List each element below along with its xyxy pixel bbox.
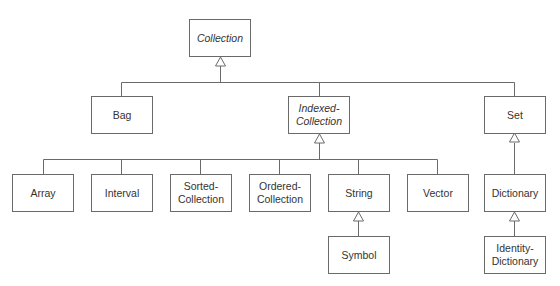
- inheritance-arrow-icon: [510, 133, 520, 142]
- connector-lines: [0, 0, 560, 286]
- class-label: Bag: [113, 109, 132, 122]
- inheritance-arrow-icon: [510, 212, 520, 221]
- class-label: Indexed- Collection: [296, 102, 342, 128]
- class-label: Collection: [197, 32, 243, 45]
- class-label: Array: [30, 187, 55, 200]
- class-label: Set: [507, 109, 523, 122]
- class-label: Sorted- Collection: [178, 180, 224, 206]
- inheritance-arrow-icon: [354, 212, 364, 221]
- class-node-sorted-collection: Sorted- Collection: [170, 174, 232, 212]
- class-node-interval: Interval: [91, 174, 153, 212]
- class-label: Ordered- Collection: [257, 180, 303, 206]
- inheritance-arrow-icon: [315, 134, 325, 143]
- class-label: Vector: [423, 187, 453, 200]
- class-node-vector: Vector: [407, 174, 469, 212]
- class-label: Dictionary: [492, 187, 539, 200]
- class-node-string: String: [328, 174, 390, 212]
- class-node-identity-dictionary: Identity- Dictionary: [484, 236, 546, 274]
- class-node-ordered-collection: Ordered- Collection: [249, 174, 311, 212]
- class-hierarchy-diagram: Collection Bag Indexed- Collection Set A…: [0, 0, 560, 286]
- class-label: String: [345, 187, 372, 200]
- class-node-set: Set: [484, 96, 546, 134]
- class-label: Interval: [105, 187, 139, 200]
- class-node-symbol: Symbol: [328, 236, 390, 274]
- class-node-dictionary: Dictionary: [484, 174, 546, 212]
- class-node-collection: Collection: [189, 19, 251, 57]
- class-node-indexed-collection: Indexed- Collection: [288, 96, 350, 134]
- class-label: Identity- Dictionary: [492, 242, 539, 268]
- class-label: Symbol: [341, 249, 376, 262]
- inheritance-arrow-icon: [216, 57, 226, 66]
- class-node-array: Array: [12, 174, 74, 212]
- class-node-bag: Bag: [91, 96, 153, 134]
